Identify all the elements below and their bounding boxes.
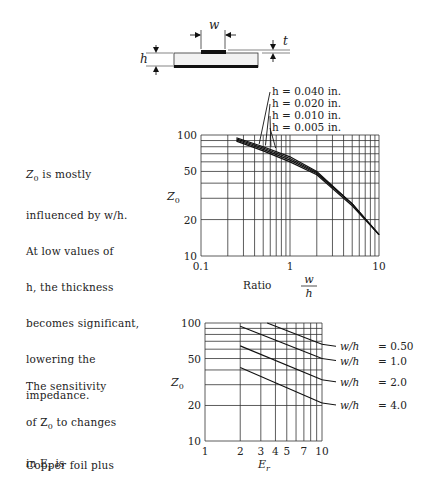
legend-value: = 0.50 <box>378 340 414 352</box>
x-tick-label: 10 <box>315 445 328 457</box>
legend-label: w/h <box>340 399 359 411</box>
series-line <box>240 346 322 380</box>
legend-leader <box>322 359 336 361</box>
x-tick-label: 7 <box>301 445 308 457</box>
legend-label: w/h <box>340 340 359 352</box>
series-line <box>240 326 322 358</box>
x-tick-label: 1 <box>202 445 209 457</box>
series-line <box>240 367 322 403</box>
x-tick-label: 2 <box>237 445 244 457</box>
y-axis-label: Z0 <box>170 376 184 391</box>
legend-value: = 4.0 <box>378 399 407 411</box>
x-tick-label: 3 <box>257 445 264 457</box>
x-tick-label: 5 <box>283 445 290 457</box>
y-tick-label: 50 <box>188 353 201 365</box>
y-tick-label: 100 <box>181 317 201 329</box>
legend-leader <box>322 403 336 405</box>
y-tick-label: 10 <box>188 435 201 447</box>
z0-vs-er-chart: 10205010012345710Z0w/h= 0.50w/h= 1.0w/h=… <box>0 0 427 491</box>
legend-label: w/h <box>340 376 359 388</box>
legend-leader <box>322 380 336 382</box>
legend-value: = 2.0 <box>378 376 407 388</box>
legend-label: w/h <box>340 355 359 367</box>
legend-value: = 1.0 <box>378 355 407 367</box>
y-tick-label: 20 <box>188 399 201 411</box>
x-axis-label: Er <box>257 458 271 473</box>
x-tick-label: 4 <box>272 445 279 457</box>
legend-leader <box>322 344 336 346</box>
